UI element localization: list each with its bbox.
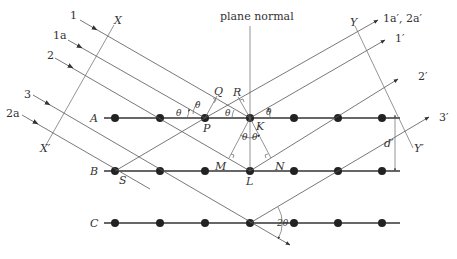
wavefront-label-X: X: [113, 14, 123, 27]
angle-label-theta-3: θ: [225, 108, 231, 118]
ray-label-1a: 1a: [53, 29, 67, 42]
point-P: P: [202, 122, 211, 135]
wavefront-label-Y-prime: Y′: [414, 142, 424, 155]
ray-1: [80, 20, 250, 118]
angle-label-2theta: 2θ: [276, 218, 289, 228]
angle-label-theta-2: θ: [195, 100, 201, 110]
plane-label-B: B: [89, 165, 98, 178]
wavefront-label-X-prime: X′: [39, 142, 51, 155]
ray-label-1-prime: 1′: [395, 32, 405, 45]
ray-1a-prime: [205, 20, 378, 118]
plane-normal-label: plane normal: [220, 10, 294, 23]
ray-label-1: 1: [70, 9, 77, 22]
angle-label-theta-1: θ: [176, 108, 182, 118]
ray-label-2-prime: 2′: [418, 70, 428, 83]
wavefront-label-Y: Y: [350, 16, 359, 29]
point-R: R: [232, 86, 241, 99]
plane-label-C: C: [90, 217, 99, 230]
ray-label-3-prime: 3′: [439, 111, 449, 124]
spacing-label: d′: [384, 137, 394, 150]
point-Q: Q: [214, 85, 223, 98]
ray-label-3: 3: [24, 88, 31, 101]
bragg-diagram: plane normal A B C 1 1a 2 3 2a 1a′, 2a′ …: [0, 0, 457, 259]
angle-label-theta-6: θ: [252, 132, 258, 142]
angle-label-theta-5: θ: [242, 132, 248, 142]
point-L: L: [245, 175, 253, 188]
ray-label-1a-2a-prime: 1a′, 2a′: [383, 12, 423, 25]
ray-label-2: 2: [47, 49, 54, 62]
ray-label-2a: 2a: [6, 107, 20, 120]
plane-label-A: A: [89, 112, 98, 125]
ray-S-P: [115, 118, 205, 171]
wavefront-X: [46, 25, 114, 145]
point-N: N: [274, 160, 285, 173]
ray-1a: [68, 40, 205, 118]
angle-label-theta-4: θ: [266, 107, 272, 117]
point-S: S: [119, 174, 127, 187]
ray-2-prime: [250, 79, 398, 171]
point-M: M: [214, 160, 227, 173]
ray-2: [55, 58, 250, 171]
